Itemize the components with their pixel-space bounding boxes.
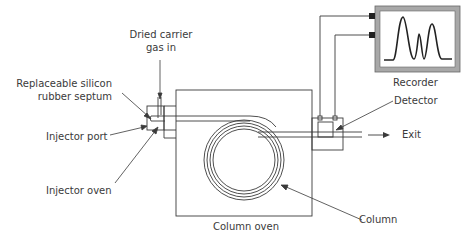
label-recorder: Recorder: [393, 76, 438, 89]
injector-oven-block: [164, 106, 176, 130]
label-detector: Detector: [394, 94, 438, 107]
leader-column: [284, 186, 362, 220]
label-carrier-gas-line1: Dried carrier: [120, 28, 202, 41]
label-carrier-gas-line2: gas in: [120, 41, 202, 54]
leader-detector: [338, 101, 393, 129]
label-injector-oven: Injector oven: [46, 184, 112, 197]
label-column: Column: [359, 213, 397, 226]
label-carrier-gas: Dried carrier gas in: [120, 28, 202, 54]
label-injector-port: Injector port: [46, 130, 108, 143]
signal-wire-2: [335, 35, 370, 116]
leader-septum: [122, 93, 149, 117]
leader-injector-port: [110, 127, 144, 135]
leader-injector-oven: [115, 130, 156, 183]
label-septum: Replaceable silicon rubber septum: [0, 77, 112, 103]
gc-schematic: [0, 0, 472, 242]
connector-2: [369, 32, 375, 38]
signal-wire-1: [320, 16, 370, 116]
label-column-oven: Column oven: [213, 220, 279, 233]
detector-block: [312, 118, 343, 150]
label-septum-line2: rubber septum: [0, 90, 112, 103]
label-septum-line1: Replaceable silicon: [0, 77, 112, 90]
label-exit: Exit: [402, 128, 421, 141]
connector-1: [369, 13, 375, 19]
